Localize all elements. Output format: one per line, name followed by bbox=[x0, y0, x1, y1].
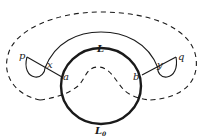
diagram-drawing bbox=[0, 0, 202, 140]
dashed-outer-loop bbox=[7, 12, 197, 100]
segment-p-a bbox=[27, 57, 62, 77]
label-L: L bbox=[97, 44, 104, 54]
label-y: y bbox=[157, 60, 163, 70]
label-q: q bbox=[178, 52, 184, 62]
label-x: x bbox=[47, 60, 53, 70]
loop-left bbox=[26, 57, 45, 77]
thick-closed-curve bbox=[61, 48, 141, 124]
label-L0-sub: 0 bbox=[102, 130, 106, 137]
label-L0-main: L bbox=[95, 125, 102, 136]
label-a: a bbox=[63, 72, 69, 82]
label-L0: L0 bbox=[95, 126, 106, 137]
diagram: p x a L b y q L0 bbox=[0, 0, 202, 140]
label-b: b bbox=[133, 72, 139, 82]
label-p: p bbox=[19, 51, 25, 61]
